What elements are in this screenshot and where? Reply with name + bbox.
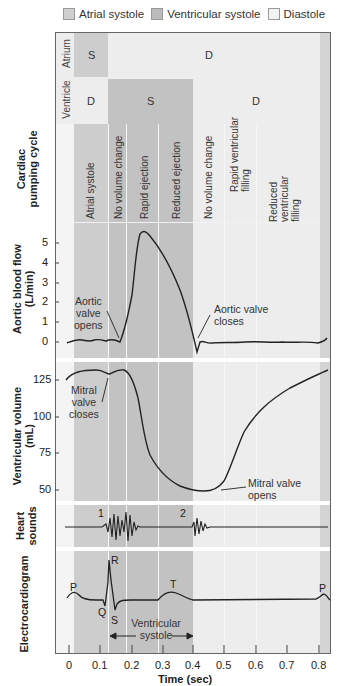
aortic-tick-3: 3 — [42, 276, 48, 288]
ventricular-volume-label: Ventricular volume (mL) — [11, 377, 39, 495]
volume-tick-125: 125 — [33, 373, 51, 385]
phase-no-volume-change-1: No volume change — [113, 136, 124, 219]
volume-tick-50: 50 — [39, 483, 51, 495]
ecg-r-wave: R — [111, 554, 119, 566]
aortic-flow-label: Aortic blood flow (L/min) — [11, 234, 39, 344]
phase-rapid-ventricular-filling: Rapid ventricular filling — [229, 117, 251, 192]
aortic-tick-2: 2 — [42, 295, 48, 307]
x-tick-0.8: 0.8 — [311, 659, 326, 671]
annotation-aortic-valve-opens: Aortic valve opens — [74, 295, 103, 331]
ventricle-s: S — [147, 95, 154, 107]
ecg-p-wave-1: P — [70, 581, 77, 593]
ecg-s-wave: S — [111, 614, 118, 626]
volume-tick-75: 75 — [39, 446, 51, 458]
annotation-aortic-valve-closes: Aortic valve closes — [214, 303, 268, 327]
aortic-tick-1: 1 — [42, 315, 48, 327]
heart-sound-s2-label: 2 — [180, 507, 186, 519]
aortic-tick-4: 4 — [42, 256, 48, 268]
aortic-tick-0: 0 — [42, 335, 48, 347]
ventricle-d1: D — [87, 95, 95, 107]
ventricle-d2: D — [252, 95, 260, 107]
phase-reduced-ventricular-filling: Reduced ventricular filling — [268, 176, 301, 222]
ecg-p-wave-2: P — [319, 582, 326, 594]
pumping-cycle-label: Cardiac pumping cycle — [15, 124, 43, 214]
x-tick-0.5: 0.5 — [216, 659, 231, 671]
x-axis-label: Time (sec) — [158, 673, 212, 685]
x-tick-0.4: 0.4 — [185, 659, 200, 671]
x-tick-0: 0 — [66, 659, 72, 671]
x-tick-0.3: 0.3 — [155, 659, 170, 671]
phase-rapid-ejection: Rapid ejection — [139, 156, 150, 219]
row-label-ventricle: Ventricle — [61, 70, 72, 130]
annotation-mitral-valve-opens: Mitral valve opens — [248, 477, 301, 501]
heart-sounds-label: Heart sounds — [14, 506, 42, 546]
phase-reduced-ejection: Reduced ejection — [171, 142, 182, 219]
x-tick-0.6: 0.6 — [248, 659, 263, 671]
x-tick-0.1: 0.1 — [92, 659, 107, 671]
phase-no-volume-change-2: No volume change — [203, 136, 214, 219]
atrium-s: S — [88, 49, 95, 61]
volume-tick-100: 100 — [33, 410, 51, 422]
heart-sound-s1-label: 1 — [98, 507, 104, 519]
phase-atrial-systole: Atrial systole — [85, 162, 96, 219]
atrium-d: D — [205, 49, 213, 61]
aortic-tick-5: 5 — [42, 236, 48, 248]
ecg-q-wave: Q — [98, 606, 106, 618]
x-tick-0.7: 0.7 — [279, 659, 294, 671]
x-tick-0.2: 0.2 — [124, 659, 139, 671]
ventricular-systole-label: Ventricular systole — [130, 617, 182, 641]
ecg-t-wave: T — [170, 578, 176, 590]
annotation-mitral-valve-closes: Mitral valve closes — [69, 384, 99, 420]
ecg-label: Electrocardiogram — [18, 549, 32, 659]
